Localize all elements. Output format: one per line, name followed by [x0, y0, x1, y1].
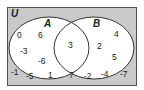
- outside-element: -5: [26, 71, 34, 81]
- set-b-label: B: [93, 18, 100, 29]
- outside-element: -2: [84, 71, 92, 81]
- outside-element: -1: [11, 67, 19, 77]
- a-only-element: 6: [38, 30, 43, 40]
- venn-diagram: U A B 0 6 -3 -6 3 4 2 5 -1 -5 1 7 -2 -4 …: [0, 0, 144, 90]
- intersection-element: 3: [68, 40, 73, 50]
- a-only-element: 0: [17, 30, 22, 40]
- outside-element: -7: [120, 69, 128, 79]
- universe-label: U: [11, 8, 19, 19]
- set-a-label: A: [43, 18, 51, 29]
- a-only-element: -6: [38, 56, 46, 66]
- b-only-element: 2: [97, 41, 102, 51]
- b-only-element: 5: [112, 52, 117, 62]
- b-only-element: 4: [114, 29, 119, 39]
- outside-element: 1: [48, 70, 53, 80]
- a-only-element: -3: [20, 46, 28, 56]
- outside-element: -4: [101, 69, 109, 79]
- outside-element: 7: [69, 70, 74, 80]
